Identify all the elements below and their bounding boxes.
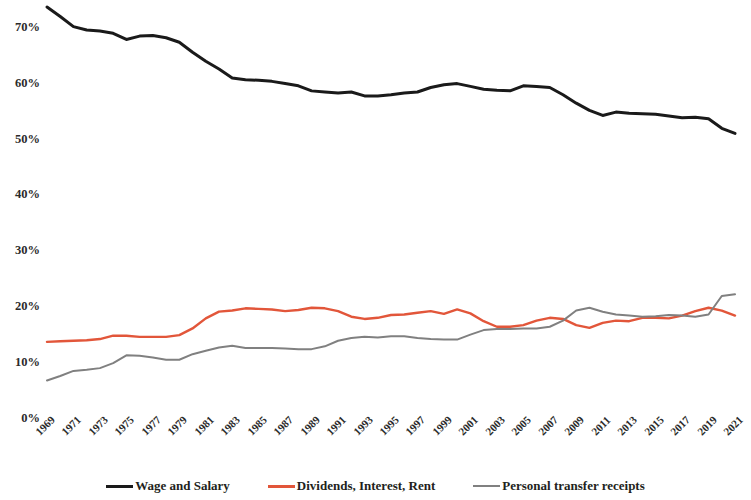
legend-swatch-icon [106, 485, 133, 488]
legend-item[interactable]: Wage and Salary [106, 478, 230, 494]
series-line-0 [47, 7, 735, 133]
chart-plot-area [0, 0, 751, 500]
y-tick-label: 30% [0, 243, 40, 258]
legend-swatch-icon [268, 485, 295, 488]
legend-item[interactable]: Personal transfer receipts [473, 478, 644, 494]
legend-item-label: Personal transfer receipts [502, 478, 644, 494]
y-tick-label: 70% [0, 20, 40, 35]
y-tick-label: 10% [0, 355, 40, 370]
y-tick-label: 60% [0, 76, 40, 91]
y-tick-label: 20% [0, 299, 40, 314]
y-tick-label: 40% [0, 187, 40, 202]
legend-item-label: Wage and Salary [135, 478, 230, 494]
legend-swatch-icon [473, 485, 500, 487]
y-tick-label: 0% [0, 411, 40, 426]
legend-item-label: Dividends, Interest, Rent [297, 478, 435, 494]
line-chart: 0%10%20%30%40%50%60%70% 1969197119731975… [0, 0, 751, 500]
legend-item[interactable]: Dividends, Interest, Rent [268, 478, 435, 494]
y-tick-label: 50% [0, 132, 40, 147]
chart-legend: Wage and SalaryDividends, Interest, Rent… [0, 478, 751, 494]
